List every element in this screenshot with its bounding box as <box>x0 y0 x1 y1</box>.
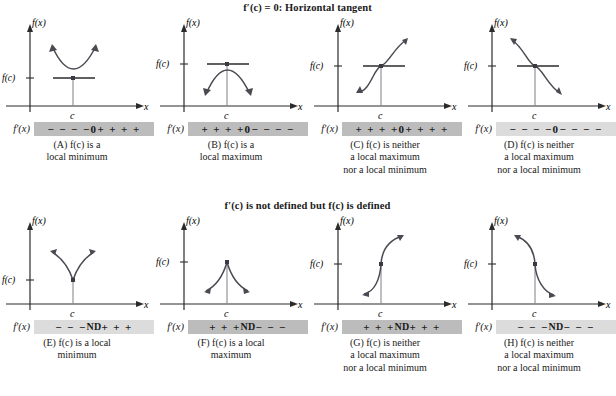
axis-label-y-H: f(x) <box>494 215 509 227</box>
sign-right-H: − − − <box>563 321 594 333</box>
sign-bar-G: + + +ND+ + + <box>342 320 462 334</box>
sign-right-F: − − − <box>255 321 286 333</box>
sign-left-C: + + + + <box>355 123 398 135</box>
section-not-differentiable: f′(c) is not defined but f(c) is defined… <box>0 198 615 396</box>
axis-label-y-D: f(x) <box>494 17 509 29</box>
deriv-label-H: f′(x) <box>462 321 496 332</box>
sign-bar-A: − − − −0+ + + + <box>34 122 154 136</box>
caption-F-line2: maximum <box>154 349 308 361</box>
section-horizontal-tangent: f′(c) = 0: Horizontal tangent f(x) x f(c… <box>0 0 615 198</box>
caption-A-line1: (A) f(c) is a <box>0 139 154 151</box>
caption-B-line1: (B) f(c) is a <box>154 139 308 151</box>
sign-bar-B: + + + +0− − − − <box>188 122 308 136</box>
plot-D: f(x) x f(c) c <box>462 16 616 122</box>
caption-H-line2: a local maximum <box>462 349 616 361</box>
axis-label-x-G: x <box>451 299 457 310</box>
axis-label-fc-E: f(c) <box>2 275 15 286</box>
sign-left-B: + + + + <box>201 123 244 135</box>
caption-G-line3: nor a local minimum <box>308 362 462 374</box>
plot-B: f(x) x f(c) c <box>154 16 308 122</box>
axis-label-x-B: x <box>297 101 303 112</box>
axis-label-x-F: x <box>297 299 303 310</box>
axis-label-x-H: x <box>605 299 611 310</box>
plot-A: f(x) x f(c) c <box>0 16 154 122</box>
sign-row-E: f′(x) − − −ND+ + + <box>0 318 154 335</box>
sign-row-G: f′(x) + + +ND+ + + <box>308 318 462 335</box>
sign-center-E: ND <box>87 321 102 332</box>
sign-right-G: + + + <box>409 321 440 333</box>
deriv-label-A: f′(x) <box>0 123 34 134</box>
caption-F: (F) f(c) is a local maximum <box>154 337 308 362</box>
sign-center-B: 0 <box>245 123 252 135</box>
axis-label-y-A: f(x) <box>32 17 47 29</box>
panel-B: f(x) x f(c) c f′(x) + + + +0− − − − (B) … <box>154 16 308 198</box>
sign-bar-F: + + +ND− − − <box>188 320 308 334</box>
axis-label-fc-C: f(c) <box>310 61 323 72</box>
caption-D-line2: a local maximum <box>462 151 616 163</box>
caption-G-line1: (G) f(c) is neither <box>308 337 462 349</box>
axis-label-y-F: f(x) <box>186 215 201 227</box>
caption-C-line1: (C) f(c) is neither <box>308 139 462 151</box>
caption-D: (D) f(c) is neither a local maximum nor … <box>462 139 616 176</box>
sign-left-D: − − − − <box>509 123 552 135</box>
axis-label-x-D: x <box>605 101 611 112</box>
axis-label-fc-F: f(c) <box>156 257 169 268</box>
axis-label-fc-G: f(c) <box>310 259 323 270</box>
sign-row-H: f′(x) − − −ND− − − <box>462 318 616 335</box>
deriv-label-C: f′(x) <box>308 123 342 134</box>
sign-left-F: + + + <box>209 321 240 333</box>
sign-right-A: + + + + <box>97 123 140 135</box>
sign-bar-H: − − −ND− − − <box>496 320 616 334</box>
sign-row-B: f′(x) + + + +0− − − − <box>154 120 308 137</box>
deriv-label-B: f′(x) <box>154 123 188 134</box>
section-title-horizontal-tangent: f′(c) = 0: Horizontal tangent <box>0 2 615 13</box>
axis-label-fc-H: f(c) <box>464 259 477 270</box>
sign-center-H: ND <box>549 321 564 332</box>
sign-center-C: 0 <box>399 123 406 135</box>
sign-center-D: 0 <box>553 123 560 135</box>
plot-H: f(x) x f(c) c <box>462 214 616 320</box>
caption-E: (E) f(c) is a local minimum <box>0 337 154 362</box>
panel-G: f(x) x f(c) c f′(x) + + +ND+ + + (G) f(c… <box>308 214 462 396</box>
panel-H: f(x) x f(c) c f′(x) − − −ND− − − (H) f(c… <box>462 214 616 396</box>
caption-G: (G) f(c) is neither a local maximum nor … <box>308 337 462 374</box>
sign-right-D: − − − − <box>559 123 602 135</box>
axis-label-fc-D: f(c) <box>464 61 477 72</box>
panel-F: f(x) x f(c) c f′(x) + + +ND− − − (F) f(c… <box>154 214 308 396</box>
axis-label-x-A: x <box>143 101 149 112</box>
caption-D-line1: (D) f(c) is neither <box>462 139 616 151</box>
axis-label-x-C: x <box>451 101 457 112</box>
caption-E-line1: (E) f(c) is a local <box>0 337 154 349</box>
deriv-label-F: f′(x) <box>154 321 188 332</box>
sign-left-G: + + + <box>363 321 394 333</box>
caption-C: (C) f(c) is neither a local maximum nor … <box>308 139 462 176</box>
axis-label-y-B: f(x) <box>186 17 201 29</box>
deriv-label-E: f′(x) <box>0 321 34 332</box>
panel-E: f(x) x f(c) c f′(x) − − −ND+ + + (E) f(c… <box>0 214 154 396</box>
axis-label-fc-B: f(c) <box>156 59 169 70</box>
sign-row-A: f′(x) − − − −0+ + + + <box>0 120 154 137</box>
caption-E-line2: minimum <box>0 349 154 361</box>
deriv-label-D: f′(x) <box>462 123 496 134</box>
caption-H: (H) f(c) is neither a local maximum nor … <box>462 337 616 374</box>
sign-bar-E: − − −ND+ + + <box>34 320 154 334</box>
panel-A: f(x) x f(c) c f′(x) − − − −0+ + + + <box>0 16 154 198</box>
axis-label-y-G: f(x) <box>340 215 355 227</box>
sign-right-B: − − − − <box>251 123 294 135</box>
sign-row-F: f′(x) + + +ND− − − <box>154 318 308 335</box>
sign-right-E: + + + <box>101 321 132 333</box>
sign-left-H: − − − <box>517 321 548 333</box>
caption-C-line3: nor a local minimum <box>308 164 462 176</box>
caption-D-line3: nor a local minimum <box>462 164 616 176</box>
sign-right-C: + + + + <box>405 123 448 135</box>
sign-left-A: − − − − <box>47 123 90 135</box>
plot-F: f(x) x f(c) c <box>154 214 308 320</box>
axis-label-x-E: x <box>143 299 149 310</box>
sign-center-G: ND <box>395 321 410 332</box>
caption-B: (B) f(c) is a local maximum <box>154 139 308 164</box>
sign-bar-D: − − − −0− − − − <box>496 122 616 136</box>
panel-D: f(x) x f(c) c f′(x) − − − −0− − − − (D) … <box>462 16 616 198</box>
sign-row-C: f′(x) + + + +0+ + + + <box>308 120 462 137</box>
caption-C-line2: a local maximum <box>308 151 462 163</box>
sign-center-A: 0 <box>91 123 98 135</box>
